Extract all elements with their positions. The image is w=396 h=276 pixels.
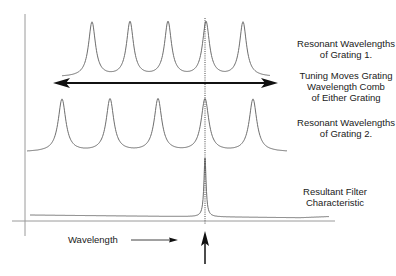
tuning-label: Tuning Moves Grating Wavelength Comb of … [296,70,396,103]
x-axis-label: Wavelength [68,234,118,245]
grating1-label-line1: Resonant Wavelengths [296,38,396,49]
axes [12,14,335,236]
resultant-label: Resultant Filter Characteristic [295,186,375,208]
tuning-label-line1: Tuning Moves Grating [296,70,396,81]
grating2-label-line2: of Grating 2. [296,128,396,139]
grating1-label: Resonant Wavelengths of Grating 1. [296,38,396,60]
grating1-comb-curve [62,21,270,76]
selected-wavelength-arrow-icon [201,231,209,264]
tuning-double-arrow-icon [53,78,278,88]
tuning-label-line3: of Either Grating [296,92,396,103]
grating1-label-line2: of Grating 1. [296,49,396,60]
resultant-label-line1: Resultant Filter [295,186,375,197]
resultant-filter-curve [30,158,329,218]
resultant-label-line2: Characteristic [295,197,375,208]
tuning-label-line2: Wavelength Comb [296,81,396,92]
wavelength-direction-arrow-icon [131,238,178,243]
grating2-comb-curve [27,98,287,150]
x-axis-label-text: Wavelength [68,234,118,245]
grating2-label-line1: Resonant Wavelengths [296,117,396,128]
grating2-label: Resonant Wavelengths of Grating 2. [296,117,396,139]
